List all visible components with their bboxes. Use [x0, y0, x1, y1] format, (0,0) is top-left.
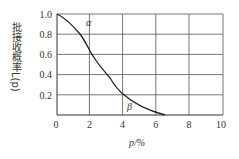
oc-curve-chart: 1.0 0.8 0.6 0.4 0.2 0 2 4 6 8 10 α β p/%…	[0, 0, 239, 159]
y-axis-label: 批接收概率L(p)	[6, 22, 20, 92]
x-axis-label: p/%	[128, 137, 145, 148]
alpha-annotation: α	[86, 17, 92, 28]
axes	[57, 14, 223, 115]
y-tick: 1.0	[40, 9, 53, 20]
y-tick: 0.2	[40, 90, 53, 101]
x-tick-labels: 0 2 4 6 8 10	[54, 119, 227, 130]
x-tick: 8	[187, 119, 192, 130]
x-tick: 4	[120, 119, 125, 130]
y-tick: 0.8	[40, 29, 53, 40]
grid	[57, 14, 223, 115]
beta-annotation: β	[126, 101, 132, 112]
chart-svg: 1.0 0.8 0.6 0.4 0.2 0 2 4 6 8 10 α β p/%	[0, 0, 239, 159]
x-tick: 0	[54, 119, 59, 130]
x-tick: 2	[87, 119, 92, 130]
y-tick: 0.4	[40, 69, 53, 80]
oc-curve-line	[57, 14, 165, 115]
x-tick: 10	[216, 119, 226, 130]
x-tick: 6	[153, 119, 158, 130]
y-tick-labels: 1.0 0.8 0.6 0.4 0.2	[40, 9, 53, 101]
y-tick: 0.6	[40, 49, 53, 60]
